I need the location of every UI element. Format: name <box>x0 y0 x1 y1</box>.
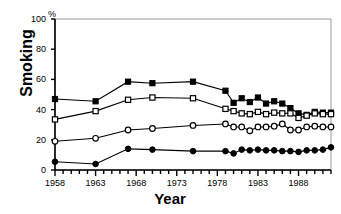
data-point-open-square <box>312 111 317 116</box>
data-point-open-square <box>150 95 155 100</box>
y-tick-label: 20 <box>22 135 46 145</box>
data-point-open-circle <box>52 139 58 145</box>
y-tick-label: 60 <box>22 74 46 84</box>
x-tick-label: 1958 <box>38 178 72 188</box>
data-point-open-square <box>52 117 57 122</box>
data-point-open-square <box>263 112 268 117</box>
percent-unit-label: % <box>48 3 56 21</box>
x-tick-label: 1988 <box>282 178 316 188</box>
data-point-filled-square <box>93 99 98 104</box>
data-point-open-circle <box>320 124 326 130</box>
data-point-open-circle <box>223 121 229 127</box>
x-tick-label: 1978 <box>200 178 234 188</box>
data-point-filled-circle <box>231 151 237 157</box>
data-point-filled-square <box>150 81 155 86</box>
plot-frame <box>55 19 331 170</box>
series-filled-circle-series <box>52 145 334 167</box>
data-point-open-square <box>190 96 195 101</box>
data-point-open-circle <box>190 123 196 129</box>
data-point-filled-circle <box>52 159 58 165</box>
data-point-open-circle <box>255 124 261 130</box>
data-point-filled-square <box>52 96 57 101</box>
percent-unit-text: % <box>48 9 56 19</box>
y-tick-label: 0 <box>22 165 46 175</box>
data-point-open-square <box>93 109 98 114</box>
data-point-filled-circle <box>190 148 196 154</box>
data-point-filled-circle <box>150 147 156 153</box>
data-point-open-circle <box>239 124 245 130</box>
data-point-filled-circle <box>263 148 269 154</box>
data-point-open-square <box>255 109 260 114</box>
data-point-filled-circle <box>247 148 253 154</box>
data-point-filled-circle <box>239 147 245 153</box>
data-point-filled-square <box>280 101 285 106</box>
y-axis-title: Smoking <box>17 8 37 118</box>
data-point-filled-circle <box>304 148 310 154</box>
data-point-open-circle <box>150 126 156 132</box>
data-point-open-circle <box>247 128 253 134</box>
data-point-filled-square <box>247 99 252 104</box>
data-point-filled-square <box>288 105 293 110</box>
y-tick-label: 80 <box>22 44 46 54</box>
data-point-open-square <box>247 112 252 117</box>
data-point-open-square <box>231 109 236 114</box>
data-point-filled-square <box>263 101 268 106</box>
y-tick-label: 40 <box>22 105 46 115</box>
data-point-filled-circle <box>279 148 285 154</box>
x-tick-label: 1968 <box>119 178 153 188</box>
data-point-open-circle <box>312 123 318 129</box>
x-axis-title-text: Year <box>154 190 186 207</box>
data-point-filled-square <box>231 100 236 105</box>
data-point-filled-square <box>125 79 130 84</box>
data-point-open-square <box>296 115 301 120</box>
data-point-filled-circle <box>328 145 334 151</box>
data-point-open-circle <box>279 121 285 127</box>
data-point-open-circle <box>93 135 99 141</box>
series-open-circle-series <box>52 121 334 144</box>
data-point-open-circle <box>263 124 269 130</box>
data-point-open-square <box>288 111 293 116</box>
data-point-filled-square <box>239 96 244 101</box>
data-point-filled-circle <box>320 147 326 153</box>
data-point-filled-circle <box>93 161 99 167</box>
data-point-open-square <box>272 110 277 115</box>
data-point-filled-square <box>272 99 277 104</box>
data-point-filled-circle <box>312 148 318 154</box>
data-point-open-circle <box>288 127 294 133</box>
data-point-open-circle <box>271 123 277 129</box>
data-point-open-circle <box>328 124 334 130</box>
data-point-open-square <box>304 113 309 118</box>
data-point-filled-square <box>190 79 195 84</box>
data-point-open-circle <box>125 127 131 133</box>
y-axis-title-text: Smoking <box>18 29 35 97</box>
data-point-filled-circle <box>125 146 131 152</box>
data-point-filled-square <box>255 95 260 100</box>
smoking-trend-chart: Smoking Year % 0204060801001958196319681… <box>0 0 341 214</box>
data-point-open-square <box>320 112 325 117</box>
data-point-open-square <box>239 111 244 116</box>
data-point-filled-circle <box>296 149 302 155</box>
data-point-open-square <box>328 112 333 117</box>
x-tick-label: 1973 <box>160 178 194 188</box>
data-point-filled-square <box>223 88 228 93</box>
y-tick-label: 100 <box>22 14 46 24</box>
x-axis-title: Year <box>120 190 220 208</box>
data-point-filled-circle <box>288 148 294 154</box>
data-point-filled-circle <box>271 148 277 154</box>
data-point-open-circle <box>304 124 310 130</box>
data-point-open-square <box>125 97 130 102</box>
data-point-open-square <box>223 106 228 111</box>
data-point-open-circle <box>296 127 302 133</box>
data-point-filled-circle <box>255 147 261 153</box>
data-point-open-square <box>280 111 285 116</box>
x-tick-label: 1963 <box>79 178 113 188</box>
x-tick-label: 1983 <box>241 178 275 188</box>
data-point-filled-circle <box>223 148 229 154</box>
data-point-open-circle <box>231 124 237 130</box>
